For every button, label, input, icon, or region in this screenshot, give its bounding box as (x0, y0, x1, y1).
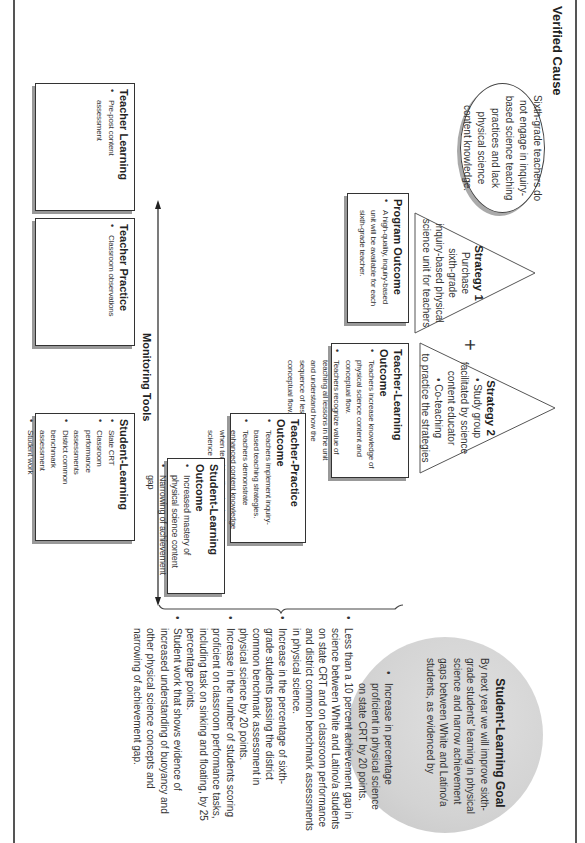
monitor-item: Classroom performance assessments (71, 419, 106, 508)
goal-item: Student work that shows evidence of incr… (131, 615, 184, 835)
goal-intro: By next year we will improve sixth-grade… (424, 658, 492, 828)
student-learning-outcome-item: Narrowing of achievement gap (145, 464, 169, 588)
strategy-1: Strategy 1 Purchase sixth-grade inquiry-… (420, 218, 485, 328)
strategy-1-line: inquiry-based physical (433, 218, 446, 328)
student-learning-outcome-title: Student-Learning Outcome (193, 464, 221, 588)
arrow-head-left (155, 200, 161, 209)
teacher-practice-outcome-box: Teacher-Practice Outcome Teachers implem… (230, 413, 306, 543)
goal-title: Student-Learning Goal (493, 658, 507, 828)
goal-item: Increase in percentage proficient in phy… (355, 670, 395, 823)
student-learning-outcome-box: Student-Learning Outcome Increased maste… (167, 458, 225, 594)
strategy-1-title: Strategy 1 (472, 218, 485, 328)
monitor-item: District common benchmark assessment (37, 419, 72, 508)
strategy-2: Strategy 2 • Study group facilitated by … (419, 345, 497, 471)
teacher-learning-outcome-box: Teacher-Learning Outcome Teachers increa… (331, 343, 409, 478)
strategy-1-line: Purchase (459, 218, 472, 328)
monitor-student-learning-box: Student-Learning State CRT Classroom per… (35, 413, 135, 541)
logic-model-diagram: Verified Cause Sixth-grade teachers do n… (0, 0, 585, 843)
teacher-practice-outcome-title: Teacher-Practice Outcome (274, 419, 302, 537)
strategy-2-line: • Study group (471, 345, 484, 471)
strategy-2-title: Strategy 2 (484, 345, 497, 471)
teacher-practice-outcome-item: Teachers implement inquiry-based teachin… (251, 419, 274, 537)
teacher-learning-outcome-item: Teachers increase knowledge of physical … (343, 349, 378, 472)
monitor-item: Student work (25, 419, 37, 535)
monitor-item: State CRT (106, 419, 118, 535)
monitor-teacher-practice-box: Teacher Practice Classroom observations (35, 218, 135, 346)
strategy-1-line: science unit for teachers (420, 218, 433, 328)
goal-item: Increase in the percentage of sixth-grad… (237, 615, 290, 808)
goal-bullets: Increase in percentage proficient in phy… (131, 615, 395, 835)
monitor-teacher-learning-box: Teacher Learning Pre-post content assess… (35, 83, 135, 211)
goal-item: Less than a 10 percent achievement gap i… (289, 615, 355, 835)
monitoring-tools-label: Monitoring Tools (141, 333, 153, 421)
teacher-learning-outcome-title: Teacher-Learning Outcome (377, 349, 405, 472)
program-outcome-title: Program Outcome (391, 199, 405, 317)
student-learning-outcome-item: Increased mastery of physical science co… (169, 464, 193, 588)
goal-brace (159, 605, 403, 613)
strategy-2-line: • Co-teaching (432, 345, 445, 471)
strategy-2-line: to practice the strategies (419, 345, 432, 471)
monitor-student-learning-title: Student-Learning (117, 419, 131, 535)
monitor-item: Classroom observations (106, 224, 118, 340)
strategy-2-line: content educator (445, 345, 458, 471)
strategy-1-line: sixth-grade (446, 218, 459, 328)
monitor-teacher-learning-title: Teacher Learning (117, 89, 131, 205)
goal-intro-block: Student-Learning Goal By next year we wi… (424, 658, 508, 828)
strategy-2-line: facilitated by science (458, 345, 471, 471)
program-outcome-box: Program Outcome A high-quality, inquiry-… (347, 193, 409, 323)
monitor-teacher-practice-title: Teacher Practice (117, 224, 131, 340)
program-outcome-item: A high-quality, inquiry-based unit will … (357, 199, 392, 317)
goal-item: Increase in the number of students scori… (184, 615, 237, 835)
arrow-head-right (155, 597, 161, 606)
monitor-item: Pre-post content assessment (94, 89, 117, 170)
